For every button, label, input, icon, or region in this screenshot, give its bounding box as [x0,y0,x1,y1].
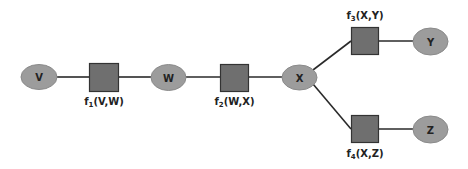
variable-node-z: Z [413,116,448,143]
edge-x-f3 [313,41,351,70]
factor-node-f3: f3(X,Y) [346,10,383,55]
factor-node-f2: f2(W,X) [214,65,254,110]
factor-label-f3: f3(X,Y) [346,10,383,23]
edge-x-f4 [313,84,351,129]
factor-node-f4: f4(X,Z) [346,116,383,162]
factor-node-f1: f1(V,W) [84,64,124,110]
variable-label-z: Z [427,125,434,136]
variable-label-x: X [296,73,304,84]
factor-graph-diagram: V W X Y Z f1(V,W) f2(W,X) f3(X,Y) f4(X,Z… [0,0,468,169]
variable-node-x: X [282,65,317,90]
variable-label-w: W [163,73,174,84]
factor-label-f2: f2(W,X) [214,96,254,109]
factor-label-f1: f1(V,W) [84,96,124,109]
variable-label-y: Y [426,37,435,48]
variable-node-v: V [21,65,57,90]
variable-node-y: Y [413,28,448,55]
variable-label-v: V [35,72,43,83]
factor-label-f4: f4(X,Z) [346,148,383,161]
variable-node-w: W [151,65,186,91]
